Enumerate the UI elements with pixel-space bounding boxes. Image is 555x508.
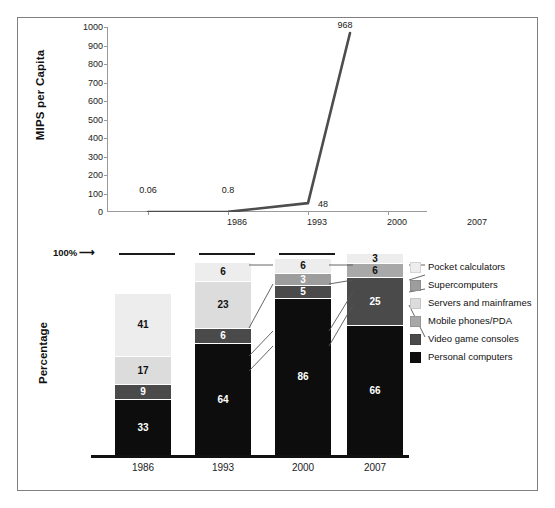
bar-x-label-1986: 1986 [132,462,154,473]
segment-pocket-calculators-1986[interactable]: 41 [115,293,171,356]
legend-item-supercomputers[interactable]: Supercomputers [410,279,536,291]
segment-pocket-calculators-1993[interactable]: 6 [195,262,251,281]
line-chart-x-tick-labels: 1986 1993 2000 2007 [107,217,427,233]
y-tick-300: 300 [61,153,103,162]
legend-swatch-mobile-phones-pda [410,316,421,327]
segment-video-game-consoles-2007[interactable]: 25 [347,277,403,325]
segment-personal-computers-2007[interactable]: 66 [347,325,403,455]
figure-container: MIPS per Capita 1000 900 800 700 600 500… [0,0,555,508]
segment-video-game-consoles-1986[interactable]: 9 [115,384,171,399]
hundred-percent-text: 100% [53,247,77,258]
line-x-label-1993: 1993 [307,217,327,227]
segment-value: 6 [220,267,226,277]
segment-video-game-consoles-2000[interactable]: 5 [275,285,331,298]
line-chart-plot-area: 0.06 0.8 48 968 [107,27,427,212]
bar-x-label-1993: 1993 [212,462,234,473]
legend-item-video-game-consoles[interactable]: Video game consoles [410,333,536,345]
segment-video-game-consoles-1993[interactable]: 6 [195,328,251,343]
legend-item-servers-and-mainframes[interactable]: Servers and mainframes [410,297,536,309]
point-label-1986: 0.06 [139,185,157,195]
segment-value: 33 [137,423,148,433]
column-cap-1993 [199,253,255,255]
line-chart-y-axis-title: MIPS per Capita [34,20,46,170]
segment-value: 6 [300,261,306,271]
segment-pocket-calculators-2007[interactable]: 3 [347,253,403,263]
y-tick-200: 200 [61,171,103,180]
column-cap-2000 [279,253,335,255]
line-x-label-2007: 2007 [467,217,487,227]
legend-item-pocket-calculators[interactable]: Pocket calculators [410,261,536,273]
y-tick-100: 100 [61,190,103,199]
mips-per-capita-line-chart: MIPS per Capita 1000 900 800 700 600 500… [17,17,538,239]
bar-chart-x-tick-labels: 1986 1993 2000 2007 [95,462,405,480]
segment-pocket-calculators-2000[interactable]: 6 [275,258,331,273]
line-chart-y-tick-labels: 1000 900 800 700 600 500 400 300 200 100… [61,27,103,212]
bar-column-1993[interactable]: 6 23 6 64 [195,262,251,455]
legend-label: Mobile phones/PDA [428,315,512,327]
legend-swatch-video-game-consoles [410,334,421,345]
legend-item-mobile-phones-pda[interactable]: Mobile phones/PDA [410,315,536,327]
legend-label: Personal computers [428,351,512,363]
segment-personal-computers-1986[interactable]: 33 [115,399,171,455]
segment-value: 5 [300,287,306,297]
point-label-2000: 48 [318,199,328,209]
point-label-1993: 0.8 [222,185,235,195]
segment-servers-and-mainframes-1986[interactable]: 17 [115,356,171,384]
segment-value: 17 [137,366,148,376]
legend-swatch-servers-and-mainframes [410,298,421,309]
y-tick-500: 500 [61,116,103,125]
bar-column-2007[interactable]: 3 6 25 66 [347,253,403,455]
segment-supercomputers-2000[interactable]: 3 [275,273,331,285]
segment-personal-computers-2000[interactable]: 86 [275,298,331,455]
y-tick-600: 600 [61,97,103,106]
point-label-2007: 968 [337,20,352,30]
arrow-right-icon: ⟶ [79,246,95,258]
y-tick-700: 700 [61,79,103,88]
bar-plot-area: 41 17 9 33 6 23 [95,251,405,455]
y-tick-0: 0 [61,208,103,217]
column-cap-1986 [119,253,175,255]
line-x-label-1986: 1986 [227,217,247,227]
line-x-label-2000: 2000 [387,217,407,227]
legend-label: Servers and mainframes [428,297,531,309]
segment-value: 66 [369,386,380,396]
bar-column-1986[interactable]: 41 17 9 33 [115,293,171,455]
segment-value: 3 [300,275,306,285]
segment-value: 3 [372,254,378,264]
bar-chart-baseline [91,455,409,458]
legend-swatch-pocket-calculators [410,262,421,273]
bar-x-label-2007: 2007 [364,462,386,473]
legend-swatch-personal-computers [410,352,421,363]
legend-swatch-supercomputers [410,280,421,291]
legend-label: Supercomputers [428,279,498,291]
segment-value: 6 [372,266,378,276]
legend-item-personal-computers[interactable]: Personal computers [410,351,536,363]
legend-label: Video game consoles [428,333,519,345]
y-tick-400: 400 [61,134,103,143]
y-tick-1000: 1000 [61,23,103,32]
segment-value: 23 [217,300,228,310]
bar-column-2000[interactable]: 6 3 5 86 [275,258,331,455]
segment-mobile-phones-pda-2007[interactable]: 6 [347,263,403,277]
y-tick-900: 900 [61,42,103,51]
hundred-percent-marker: 100%⟶ [53,246,95,259]
legend-label: Pocket calculators [428,261,505,273]
segment-value: 64 [217,395,228,405]
bar-chart-y-axis-title: Percentage [37,293,49,413]
segment-value: 9 [140,387,146,397]
segment-value: 86 [297,372,308,382]
chart-legend: Pocket calculators Supercomputers Server… [410,261,536,369]
segment-value: 41 [137,320,148,330]
y-tick-800: 800 [61,60,103,69]
segment-value: 6 [220,331,226,341]
segment-servers-and-mainframes-1993[interactable]: 23 [195,281,251,328]
segment-personal-computers-1993[interactable]: 64 [195,343,251,455]
segment-value: 25 [369,297,380,307]
bar-x-label-2000: 2000 [292,462,314,473]
